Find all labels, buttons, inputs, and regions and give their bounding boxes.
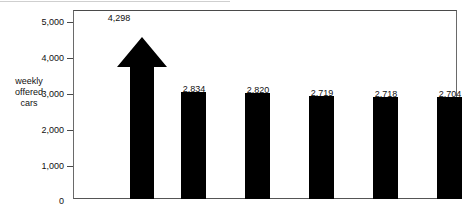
bar-arrow-0[interactable] bbox=[117, 37, 167, 199]
y-tick-label-2000: 2,000 bbox=[26, 126, 64, 135]
y-axis-title-line-1: weekly bbox=[2, 76, 56, 87]
bar-5[interactable] bbox=[437, 97, 462, 199]
plot-area bbox=[73, 10, 457, 199]
bar-chart: weekly offered cars 5,000 4,000 3,000 2,… bbox=[0, 0, 471, 207]
bar-value-2: 2,820 bbox=[231, 86, 285, 95]
bar-1[interactable] bbox=[181, 92, 206, 199]
bar-value-1: 2,834 bbox=[167, 85, 221, 94]
bar-4[interactable] bbox=[373, 97, 398, 199]
bar-value-3: 2,719 bbox=[295, 89, 349, 98]
y-axis-title-line-3: cars bbox=[2, 98, 56, 109]
y-tick-label-5000: 5,000 bbox=[26, 18, 64, 27]
bar-value-5: 2,704 bbox=[423, 90, 471, 99]
y-tick-label-0: 0 bbox=[26, 197, 64, 206]
y-tick-label-4000: 4,000 bbox=[26, 54, 64, 63]
bar-value-0: 4,298 bbox=[92, 14, 146, 23]
y-tick-label-3000: 3,000 bbox=[26, 90, 64, 99]
up-arrow-icon bbox=[117, 37, 167, 199]
bar-2[interactable] bbox=[245, 93, 270, 199]
bar-3[interactable] bbox=[309, 96, 334, 199]
y-tick-label-1000: 1,000 bbox=[26, 162, 64, 171]
bar-value-4: 2,718 bbox=[359, 90, 413, 99]
top-scan-line bbox=[0, 1, 230, 2]
